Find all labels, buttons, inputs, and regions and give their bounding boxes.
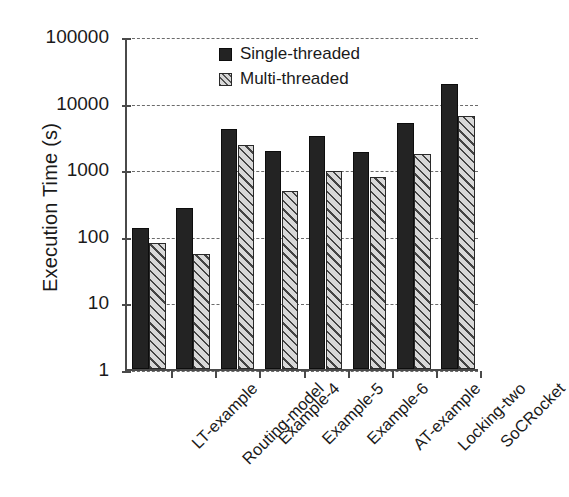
bar-multi-threaded	[193, 254, 210, 369]
x-tick-mark	[259, 371, 261, 378]
y-tick-mark	[122, 38, 131, 40]
bar-single-threaded	[265, 151, 282, 369]
bar-multi-threaded	[458, 116, 475, 369]
bar-multi-threaded	[149, 243, 166, 369]
y-tick-label: 100000	[0, 26, 109, 48]
bar-multi-threaded	[414, 154, 431, 369]
y-tick-label: 10	[0, 292, 109, 314]
legend-item-multi-threaded: Multi-threaded	[219, 69, 360, 89]
x-tick-mark	[392, 371, 394, 378]
y-tick-label: 100	[0, 226, 109, 248]
bar-group	[176, 38, 210, 369]
bar-group	[397, 38, 431, 369]
y-tick-mark	[122, 105, 131, 107]
x-tick-mark	[348, 371, 350, 378]
legend-label-multi-threaded: Multi-threaded	[240, 69, 349, 89]
x-tick-mark	[436, 371, 438, 378]
y-tick-label: 1	[0, 359, 109, 381]
bar-multi-threaded	[326, 171, 343, 369]
bar-single-threaded	[176, 208, 193, 369]
bar-single-threaded	[441, 84, 458, 369]
y-tick-label: 1000	[0, 159, 109, 181]
bar-group	[441, 38, 475, 369]
bar-single-threaded	[353, 152, 370, 369]
bar-single-threaded	[309, 136, 326, 369]
x-tick-mark	[171, 371, 173, 378]
bar-multi-threaded	[238, 145, 255, 369]
legend-item-single-threaded: Single-threaded	[219, 44, 360, 64]
bar-multi-threaded	[282, 191, 299, 369]
x-tick-mark	[480, 371, 482, 378]
bar-single-threaded	[397, 123, 414, 369]
y-tick-mark	[122, 371, 131, 373]
bar-single-threaded	[221, 129, 238, 369]
y-tick-label: 10000	[0, 93, 109, 115]
bar-multi-threaded	[370, 177, 387, 369]
bar-single-threaded	[132, 228, 149, 369]
bar-group	[132, 38, 166, 369]
x-tick-mark	[304, 371, 306, 378]
gridline	[127, 371, 478, 372]
y-tick-mark	[122, 171, 131, 173]
legend: Single-threaded Multi-threaded	[213, 40, 366, 98]
legend-label-single-threaded: Single-threaded	[240, 44, 360, 64]
solid-black-square-icon	[219, 48, 232, 61]
x-tick-mark	[215, 371, 217, 378]
y-tick-mark	[122, 238, 131, 240]
y-tick-mark	[122, 304, 131, 306]
hatched-square-icon	[219, 73, 232, 86]
